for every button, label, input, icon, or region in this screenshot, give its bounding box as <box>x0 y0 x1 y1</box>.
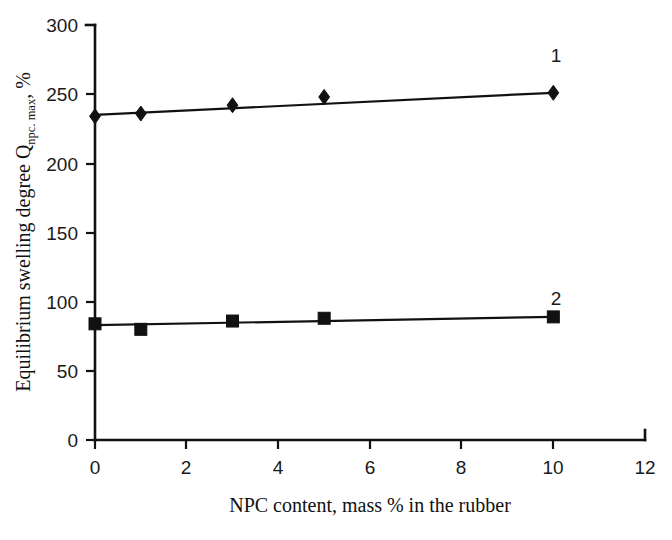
series-1-point-1 <box>135 106 146 121</box>
series-2-point-2 <box>227 315 239 327</box>
x-tick-label-0: 0 <box>90 457 101 478</box>
y-tick-marks <box>86 94 95 440</box>
x-tick-label-2: 2 <box>181 457 192 478</box>
series-1-point-3 <box>319 89 330 104</box>
y-axis-title-subscript: npc. max <box>24 98 38 145</box>
svg-text:Equilibrium swelling degree Qn: Equilibrium swelling degree Qnpc. max, % <box>12 72 38 392</box>
series-label-2: 2 <box>551 288 562 309</box>
series-2-point-4 <box>547 311 559 323</box>
y-tick-label-250: 250 <box>46 84 78 105</box>
series-1-point-0 <box>90 109 101 124</box>
x-tick-marks <box>95 440 553 449</box>
y-axis-title: Equilibrium swelling degree Qnpc. max, % <box>12 72 38 392</box>
series-2-point-0 <box>89 318 101 330</box>
y-tick-label-300: 300 <box>46 15 78 36</box>
series-2-point-3 <box>318 312 330 324</box>
series-annotations: 1 2 <box>551 45 562 309</box>
series-1-point-4 <box>548 85 559 100</box>
series-2 <box>89 311 559 335</box>
y-tick-labels: 300 250 200 150 100 50 0 <box>46 15 78 451</box>
axis-group <box>86 25 645 440</box>
x-tick-label-12: 12 <box>634 457 655 478</box>
y-tick-label-200: 200 <box>46 154 78 175</box>
x-axis-title: NPC content, mass % in the rubber <box>229 494 511 516</box>
chart-figure: 300 250 200 150 100 50 0 0 2 4 6 8 10 12… <box>0 0 672 540</box>
y-tick-label-50: 50 <box>57 361 78 382</box>
x-tick-label-8: 8 <box>456 457 467 478</box>
y-tick-label-100: 100 <box>46 292 78 313</box>
series-1 <box>90 85 559 124</box>
data-series-layer <box>89 85 559 335</box>
y-axis-title-tail: , % <box>12 72 34 99</box>
y-tick-label-150: 150 <box>46 223 78 244</box>
x-tick-labels: 0 2 4 6 8 10 12 <box>90 457 656 478</box>
x-tick-label-4: 4 <box>273 457 284 478</box>
x-tick-label-10: 10 <box>542 457 563 478</box>
chart-canvas: 300 250 200 150 100 50 0 0 2 4 6 8 10 12… <box>0 0 672 540</box>
series-label-1: 1 <box>551 45 562 66</box>
x-tick-label-6: 6 <box>365 457 376 478</box>
y-tick-label-0: 0 <box>67 430 78 451</box>
series-2-point-1 <box>135 323 147 335</box>
y-axis-title-main: Equilibrium swelling degree Q <box>12 144 35 392</box>
series-1-point-2 <box>227 98 238 113</box>
